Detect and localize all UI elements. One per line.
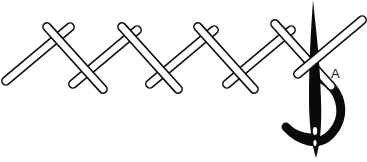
front-stitch (292, 14, 367, 79)
herringbone-stitch-illustration (0, 0, 367, 162)
stitch-diagram: A (0, 0, 367, 162)
point-label-a: A (331, 66, 340, 81)
